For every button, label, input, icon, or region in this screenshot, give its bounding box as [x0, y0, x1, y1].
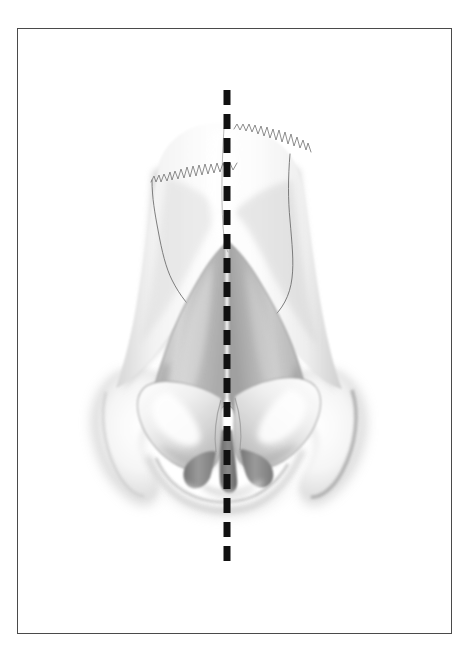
figure-root: Frontal view of nasal skeletal framework…	[0, 0, 475, 649]
nose-anatomy-illustration: Left alar soft tissue lobule Right alar …	[0, 0, 475, 649]
